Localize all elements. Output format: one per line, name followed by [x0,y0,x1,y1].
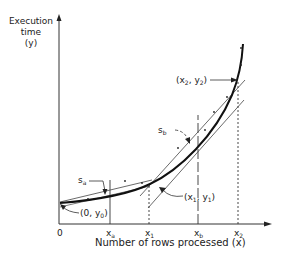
sb-label: sb [158,125,167,138]
point-1-label: (x1, y1) [184,192,215,205]
y-axis-label-line1: Execution [2,16,60,27]
y-axis-label: Execution time (y) [2,16,60,49]
cost-curve [60,44,243,203]
point-2-label: (x2, y2) [176,75,207,88]
p0-pointer [63,207,79,213]
sb-line [140,80,245,196]
point-0-label: (0, y0) [80,208,108,221]
sb-pointer [175,130,188,140]
y-axis-label-line2: time [2,27,60,38]
x-axis-arrow-icon [264,222,272,227]
sa-label: sa [78,175,86,188]
sa-pointer [89,181,105,191]
x-axis-label: Number of rows processed (x) [95,238,246,248]
p1-pointer [163,190,183,196]
origin-label: 0 [57,228,63,238]
y-axis-label-line3: (y) [2,38,60,49]
